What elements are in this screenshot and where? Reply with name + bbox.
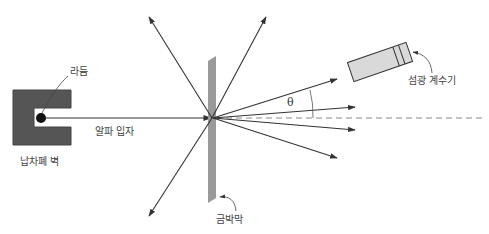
theta-label: θ [287,96,294,109]
gold-foil-label: 금박막 [216,214,243,225]
foil-leader-line [220,197,236,211]
ray-small-up [213,107,355,118]
ray-back-lower-left [149,118,212,216]
alpha-particles-label: 알파 입자 [95,125,134,137]
lead-shield-label: 납차폐 벽 [20,156,59,167]
ray-small-down [213,118,355,130]
radium-label: 라듐 [70,66,88,77]
ray-back-upper-left [149,17,212,118]
counter-leader-line [413,52,432,73]
theta-arc [310,90,313,118]
scintillation-counter-label: 섬광 계수기 [408,75,456,86]
ray-lower-right [213,118,337,158]
scintillation-counter [347,42,412,81]
gold-foil [208,56,216,203]
rutherford-diagram: θ 라듐 납차폐 벽 알파 입자 금박막 섬광 계수기 [0,0,489,234]
radium-source [36,113,46,123]
ray-upper-right [212,17,266,118]
ray-theta [213,79,337,118]
